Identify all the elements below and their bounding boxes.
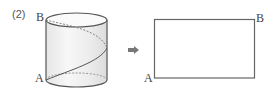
unrolled-rectangle bbox=[155, 20, 255, 79]
right-arrow-icon bbox=[128, 46, 139, 54]
rectangle-label-a: A bbox=[144, 72, 153, 84]
cylinder bbox=[46, 13, 107, 87]
cylinder-body bbox=[46, 20, 107, 87]
rectangle-label-b: B bbox=[256, 12, 264, 24]
cylinder-top-ellipse bbox=[46, 13, 107, 27]
diagram-canvas bbox=[0, 0, 278, 98]
